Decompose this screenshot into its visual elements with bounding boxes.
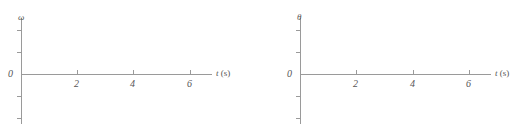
plot-panel-omega: ω 0 2 4 6 t (s): [0, 0, 262, 131]
axes-omega: [0, 0, 262, 131]
x-tick-label-theta-6: 6: [466, 79, 471, 89]
x-axis-unit-omega: (s): [221, 68, 231, 78]
x-axis-title-omega: t (s): [216, 69, 230, 78]
y-axis-title-omega-symbol: ω: [18, 13, 24, 22]
axes-theta: [262, 0, 525, 131]
x-axis-title-theta: t (s): [495, 69, 509, 78]
x-axis-unit-theta: (s): [500, 68, 510, 78]
figure-root: ω 0 2 4 6 t (s) θ 0 2 4 6 t (s): [0, 0, 525, 131]
y-axis-title-theta-symbol: θ: [297, 13, 301, 22]
x-tick-label-omega-4: 4: [130, 79, 135, 89]
x-tick-label-omega-6: 6: [187, 79, 192, 89]
x-tick-label-theta-2: 2: [353, 79, 358, 89]
x-tick-label-omega-2: 2: [74, 79, 79, 89]
plot-panel-theta: θ 0 2 4 6 t (s): [262, 0, 524, 131]
origin-label-theta: 0: [287, 69, 292, 79]
origin-label-omega: 0: [8, 69, 13, 79]
x-tick-label-theta-4: 4: [410, 79, 415, 89]
